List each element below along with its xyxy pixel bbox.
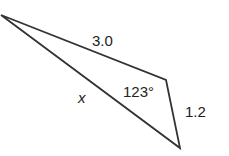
triangle-diagram: 3.0 1.2 x 123° — [0, 0, 229, 156]
triangle — [1, 15, 180, 148]
side-label-ab: 3.0 — [92, 32, 113, 49]
side-label-ac: x — [77, 89, 86, 106]
side-label-bc: 1.2 — [185, 103, 206, 120]
angle-label-b: 123° — [123, 83, 154, 100]
